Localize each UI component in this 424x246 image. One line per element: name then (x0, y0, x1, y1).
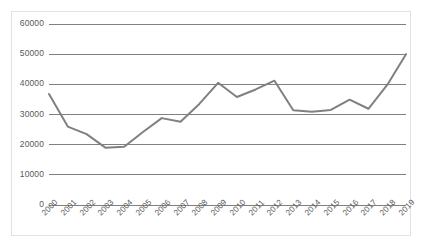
data-line-group (49, 54, 406, 148)
y-tick-label-40000: 40000 (6, 79, 44, 88)
chart-container: 0100002000030000400005000060000 20002001… (0, 0, 424, 246)
y-tick-label-20000: 20000 (6, 140, 44, 149)
y-tick-label-10000: 10000 (6, 170, 44, 179)
data-series-line (49, 54, 406, 148)
y-tick-label-50000: 50000 (6, 49, 44, 58)
y-tick-label-60000: 60000 (6, 19, 44, 28)
y-tick-label-30000: 30000 (6, 110, 44, 119)
gridlines-group (49, 24, 406, 205)
y-tick-label-0: 0 (6, 200, 44, 209)
